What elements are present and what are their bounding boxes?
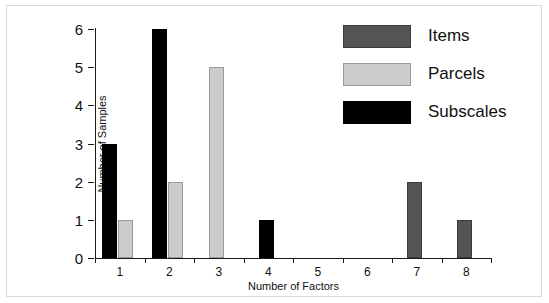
legend-item-parcels[interactable]: Parcels: [343, 58, 506, 90]
y-axis-tick-label: 5: [75, 60, 83, 75]
x-axis-tick: [442, 258, 443, 263]
x-axis-tick: [145, 258, 146, 263]
legend-swatch-items-icon: [343, 25, 411, 48]
bar-subscales-1[interactable]: [102, 144, 117, 259]
x-axis-title: Number of Factors: [95, 280, 492, 292]
legend: Items Parcels Subscales: [343, 20, 506, 134]
legend-swatch-parcels-icon: [343, 63, 411, 86]
y-axis-tick: [88, 182, 94, 183]
bar-items-7[interactable]: [407, 182, 422, 258]
x-axis-tick-label: 6: [364, 266, 371, 278]
x-axis-tick: [95, 258, 96, 263]
y-axis-tick: [88, 258, 94, 259]
y-axis-tick: [88, 105, 94, 106]
x-axis-tick-label: 4: [265, 266, 272, 278]
x-axis-tick: [491, 258, 492, 263]
bar-items-8[interactable]: [457, 220, 472, 258]
x-axis-tick-label: 7: [413, 266, 420, 278]
bar-parcels-2[interactable]: [168, 182, 183, 258]
legend-label-items: Items: [428, 26, 470, 46]
y-axis-tick: [88, 29, 94, 30]
x-axis-tick-label: 1: [116, 266, 123, 278]
x-axis-tick: [244, 258, 245, 263]
legend-label-subscales: Subscales: [428, 102, 506, 122]
y-axis-tick: [88, 144, 94, 145]
y-axis-tick-label: 1: [75, 212, 83, 227]
x-axis-tick: [343, 258, 344, 263]
y-axis-tick: [88, 67, 94, 68]
legend-label-parcels: Parcels: [428, 64, 485, 84]
figure-frame: Number of Samples 012345612345678 Number…: [6, 5, 542, 297]
x-axis-tick: [392, 258, 393, 263]
y-axis-tick-label: 6: [75, 22, 83, 37]
bar-subscales-2[interactable]: [152, 29, 167, 258]
bar-parcels-3[interactable]: [209, 67, 224, 258]
legend-item-subscales[interactable]: Subscales: [343, 96, 506, 128]
y-axis-tick-label: 0: [75, 251, 83, 266]
x-axis-tick-label: 3: [215, 266, 222, 278]
bar-parcels-1[interactable]: [118, 220, 133, 258]
y-axis-tick: [88, 220, 94, 221]
x-axis-tick-label: 8: [463, 266, 470, 278]
x-axis-tick: [293, 258, 294, 263]
bar-subscales-4[interactable]: [259, 220, 274, 258]
legend-swatch-subscales-icon: [343, 101, 411, 124]
y-axis-tick-label: 3: [75, 136, 83, 151]
x-axis-tick-label: 5: [314, 266, 321, 278]
y-axis-tick-label: 2: [75, 174, 83, 189]
x-axis-tick: [194, 258, 195, 263]
y-axis-tick-label: 4: [75, 98, 83, 113]
x-axis-tick-label: 2: [166, 266, 173, 278]
legend-item-items[interactable]: Items: [343, 20, 506, 52]
